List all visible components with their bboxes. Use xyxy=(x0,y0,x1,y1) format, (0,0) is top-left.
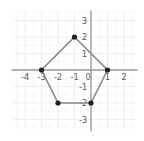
vertex-point xyxy=(39,67,44,72)
vertex-point xyxy=(72,34,77,39)
vertex-point xyxy=(88,100,93,105)
x-tick-label: -2 xyxy=(54,73,62,82)
vertex-point xyxy=(105,67,110,72)
y-tick-label: -1 xyxy=(79,83,87,92)
x-tick-label: -1 xyxy=(71,73,79,82)
coordinate-plane: -4-3-2-1012321-1-2-3 xyxy=(0,0,144,141)
vertex-point xyxy=(55,100,60,105)
grid-lines xyxy=(13,12,135,129)
y-tick-label: 2 xyxy=(82,33,87,42)
x-tick-label: 0 xyxy=(85,73,90,82)
x-tick-label: -4 xyxy=(21,73,29,82)
x-tick-label: 2 xyxy=(121,73,126,82)
y-tick-label: 3 xyxy=(82,17,87,26)
y-tick-label: 1 xyxy=(82,50,87,59)
y-tick-label: -3 xyxy=(79,116,87,125)
